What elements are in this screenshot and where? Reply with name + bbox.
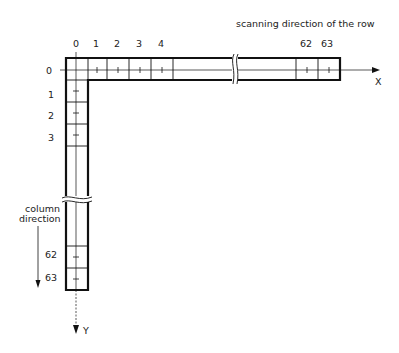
column-break-mark — [62, 196, 92, 203]
row-bar — [66, 58, 340, 290]
row-break-mark — [232, 54, 238, 84]
pixel-scan-diagram: X Y — [0, 0, 399, 353]
row-index-1: 1 — [48, 89, 54, 100]
col-index-62: 62 — [300, 38, 312, 49]
row-scan-direction-label: scanning direction of the row — [236, 18, 375, 29]
row-index-63: 63 — [45, 272, 57, 283]
y-axis-arrowhead — [73, 325, 79, 334]
row-index-62: 62 — [45, 249, 57, 260]
col-index-1: 1 — [93, 38, 99, 49]
row-index-2: 2 — [48, 110, 54, 121]
y-axis-label: Y — [82, 325, 89, 336]
col-index-0: 0 — [73, 38, 79, 49]
row-index-0: 0 — [46, 65, 52, 76]
col-index-3: 3 — [136, 38, 142, 49]
x-axis-label: X — [375, 76, 382, 87]
column-direction-label-line2: direction — [19, 213, 61, 224]
row-index-3: 3 — [48, 132, 54, 143]
col-index-4: 4 — [158, 38, 164, 49]
col-index-63: 63 — [321, 38, 333, 49]
col-index-2: 2 — [114, 38, 120, 49]
column-direction-arrowhead — [36, 280, 41, 288]
l-shape-outline — [66, 58, 340, 290]
x-axis-arrowhead — [372, 67, 380, 73]
